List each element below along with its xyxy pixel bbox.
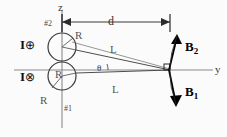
coil-1-radius-label: R: [55, 69, 62, 80]
coil-1-radius-line-a: [62, 73, 76, 76]
current-label-coil-2: I⊕: [20, 38, 35, 51]
coil-2-radius-label: R: [75, 30, 82, 41]
y-axis-label: y: [215, 64, 221, 75]
coil-2-marker-label: #2: [44, 20, 52, 28]
coil-2-radius-line-b: [62, 47, 76, 50]
slant-label-L-lower: L: [112, 84, 119, 95]
field-vector-letter-B2: B: [185, 39, 194, 54]
dimension-label-d: d: [108, 15, 114, 27]
coil-1-radius-label-outer: R: [40, 95, 47, 106]
field-vector-letter-B1: B: [185, 84, 194, 99]
field-vector-subscript-B1: 1: [194, 91, 199, 101]
slant-line-aux-upper: [72, 42, 170, 69]
angle-label-theta: θ: [97, 64, 101, 73]
coil-1-marker-label: #1: [64, 105, 72, 113]
current-symbol-into-page: ⊗: [25, 70, 35, 84]
field-vector-subscript-B2: 2: [194, 46, 199, 56]
vector-B2-arrowhead: [171, 34, 182, 44]
field-vector-label-B1: B1: [185, 85, 198, 98]
angle-arc-theta: [107, 64, 108, 70]
coil-2-radius-line-a: [62, 38, 73, 47]
dimension-arrowhead-right: [161, 18, 170, 26]
slant-line-L-upper: [76, 50, 170, 70]
current-symbol-out-of-page: ⊕: [25, 38, 35, 52]
z-axis-label: z: [58, 2, 63, 13]
physics-figure: z y #2 #1 d R R R L L θ I⊕ I⊗ B2 B1: [0, 0, 227, 137]
field-vector-label-B2: B2: [185, 40, 198, 53]
vector-B1-arrowhead: [170, 95, 182, 107]
slant-label-L-upper: L: [110, 44, 117, 55]
current-label-coil-1: I⊗: [20, 70, 35, 83]
dimension-arrowhead-left: [62, 18, 71, 26]
